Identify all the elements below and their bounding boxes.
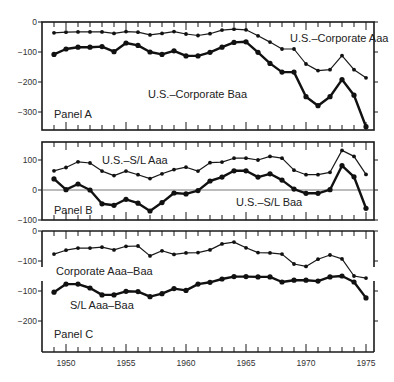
series-label-sl-baa: U.S.–S/L Baa: [236, 196, 303, 208]
data-point: [291, 278, 296, 283]
data-point: [340, 257, 344, 261]
data-point: [63, 187, 68, 192]
chart-figure: U.S.–Corporate Aaa U.S.–Corporate Baa Pa…: [0, 0, 394, 382]
data-point: [328, 68, 332, 72]
data-point: [63, 282, 68, 287]
data-point: [184, 165, 188, 169]
data-point: [183, 53, 188, 58]
data-point: [304, 265, 308, 269]
data-point: [363, 295, 368, 300]
data-point: [51, 290, 56, 295]
data-point: [316, 257, 320, 261]
data-point: [123, 289, 128, 294]
data-point: [207, 280, 212, 285]
data-point: [124, 244, 128, 248]
x-tick-label: 1955: [117, 358, 136, 368]
data-point: [339, 163, 344, 168]
data-point: [195, 282, 200, 287]
data-point: [267, 274, 272, 279]
data-point: [268, 40, 272, 44]
y-tick-label: 100: [23, 155, 37, 165]
data-point: [76, 160, 80, 164]
data-point: [232, 156, 236, 160]
data-point: [279, 70, 284, 75]
data-point: [171, 190, 176, 195]
data-point: [100, 30, 104, 34]
y-tick-label: −200: [18, 77, 37, 87]
data-point: [148, 254, 152, 258]
data-point: [256, 34, 260, 38]
y-tick-label: −100: [18, 47, 37, 57]
data-point: [208, 248, 212, 252]
data-point: [327, 187, 332, 192]
data-point: [76, 30, 80, 34]
data-point: [111, 292, 116, 297]
y-tick-label: 0: [32, 226, 37, 236]
data-point: [123, 40, 128, 45]
data-point: [99, 201, 104, 206]
data-point: [147, 208, 152, 213]
data-point: [243, 274, 248, 279]
data-point: [219, 175, 224, 180]
data-point: [112, 174, 116, 178]
data-point: [232, 240, 236, 244]
data-point: [75, 45, 80, 50]
data-point: [184, 32, 188, 36]
data-point: [52, 252, 56, 256]
data-point: [267, 171, 272, 176]
data-point: [351, 174, 356, 179]
data-point: [111, 49, 116, 54]
y-tick-label: −100: [18, 256, 37, 266]
data-point: [87, 45, 92, 50]
data-point: [124, 30, 128, 34]
data-point: [231, 40, 236, 45]
data-point: [87, 187, 92, 192]
data-point: [135, 289, 140, 294]
data-point: [136, 30, 140, 34]
data-point: [100, 245, 104, 249]
data-point: [63, 46, 68, 51]
data-point: [160, 172, 164, 176]
data-point: [352, 68, 356, 72]
data-point: [172, 168, 176, 172]
data-point: [352, 274, 356, 278]
data-point: [135, 43, 140, 48]
data-point: [328, 170, 332, 174]
data-point: [231, 274, 236, 279]
data-point: [256, 251, 260, 255]
data-point: [291, 70, 296, 75]
data-point: [255, 50, 260, 55]
panel-a-label: Panel A: [54, 108, 93, 120]
data-point: [88, 30, 92, 34]
data-point: [64, 166, 68, 170]
data-point: [327, 94, 332, 99]
data-point: [51, 52, 56, 57]
data-point: [172, 30, 176, 34]
data-point: [351, 279, 356, 284]
data-point: [100, 169, 104, 173]
data-point: [244, 246, 248, 250]
data-point: [315, 103, 320, 108]
data-point: [183, 191, 188, 196]
panel-c-label: Panel C: [54, 328, 93, 340]
x-tick-label: 1970: [297, 358, 316, 368]
data-point: [244, 28, 248, 32]
y-tick-label: 0: [32, 17, 37, 27]
data-point: [280, 156, 284, 160]
data-point: [64, 30, 68, 34]
data-point: [184, 251, 188, 255]
data-point: [268, 155, 272, 159]
series-label-corporate-spread: Corporate Aaa–Baa: [56, 265, 154, 277]
data-point: [339, 77, 344, 82]
data-point: [76, 246, 80, 250]
series-label-sl-spread: S/L Aaa–Baa: [70, 299, 135, 311]
data-point: [171, 48, 176, 53]
data-point: [303, 278, 308, 283]
x-tick-label: 1965: [237, 358, 256, 368]
x-tick-label: 1950: [57, 358, 76, 368]
data-point: [99, 44, 104, 49]
data-point: [196, 169, 200, 173]
data-point: [64, 248, 68, 252]
data-point: [99, 292, 104, 297]
data-point: [363, 124, 368, 129]
